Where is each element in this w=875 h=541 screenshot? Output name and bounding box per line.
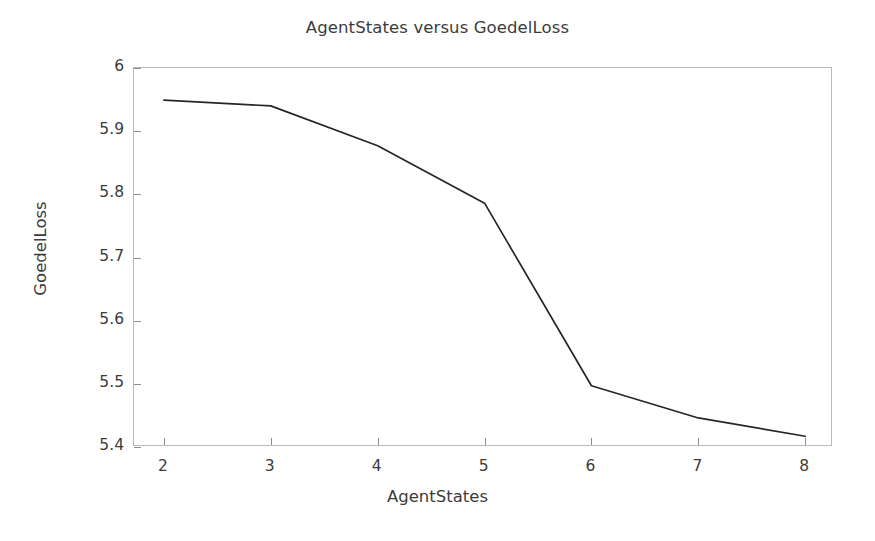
x-tick-mark — [485, 438, 486, 445]
x-tick-label: 2 — [133, 457, 193, 475]
y-tick-label: 5.8 — [4, 183, 124, 201]
x-tick-mark — [591, 438, 592, 445]
x-tick-label: 4 — [347, 457, 407, 475]
x-tick-mark — [698, 438, 699, 445]
data-line-series — [134, 68, 833, 447]
y-tick-mark — [134, 321, 141, 322]
chart-title: AgentStates versus GoedelLoss — [0, 18, 875, 37]
x-tick-label: 7 — [667, 457, 727, 475]
y-tick-mark — [134, 194, 141, 195]
x-tick-mark — [805, 438, 806, 445]
y-tick-mark — [134, 258, 141, 259]
y-tick-label: 6 — [4, 57, 124, 75]
y-tick-mark — [134, 384, 141, 385]
chart-figure: AgentStates versus GoedelLoss GoedelLoss… — [0, 0, 875, 541]
y-tick-mark — [134, 131, 141, 132]
y-tick-label: 5.4 — [4, 436, 124, 454]
x-tick-mark — [164, 438, 165, 445]
line-goedelloss — [164, 100, 805, 436]
y-tick-label: 5.6 — [4, 310, 124, 328]
y-tick-label: 5.5 — [4, 373, 124, 391]
y-tick-mark — [134, 68, 141, 69]
x-tick-mark — [378, 438, 379, 445]
x-axis-label: AgentStates — [0, 487, 875, 506]
x-tick-label: 3 — [240, 457, 300, 475]
x-tick-mark — [271, 438, 272, 445]
y-tick-mark — [134, 447, 141, 448]
plot-area — [133, 67, 832, 446]
y-tick-label: 5.7 — [4, 247, 124, 265]
x-tick-label: 5 — [454, 457, 514, 475]
x-tick-label: 6 — [560, 457, 620, 475]
x-tick-label: 8 — [774, 457, 834, 475]
y-tick-label: 5.9 — [4, 120, 124, 138]
x-axis-tick-labels: 2345678 — [0, 457, 875, 487]
